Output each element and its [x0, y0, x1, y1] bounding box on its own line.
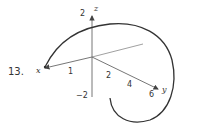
x-tick-1: 1 [68, 67, 73, 76]
curve-start-point [44, 66, 46, 68]
y-tick-4: 4 [127, 80, 132, 89]
x-axis-label: x [36, 66, 41, 75]
z-tick-2: 2 [80, 9, 85, 18]
z-tick-neg2: −2 [76, 91, 88, 100]
y-tick-6: 6 [149, 90, 154, 99]
problem-number: 13. [8, 66, 24, 77]
space-curve-diagram: 13. x 1 z 2 −2 2 4 6 y [0, 0, 197, 130]
y-tick-2: 2 [106, 71, 111, 80]
y-axis [92, 57, 158, 89]
x-axis-back [92, 44, 143, 57]
z-axis-label: z [93, 4, 99, 13]
y-axis-label: y [161, 85, 167, 94]
